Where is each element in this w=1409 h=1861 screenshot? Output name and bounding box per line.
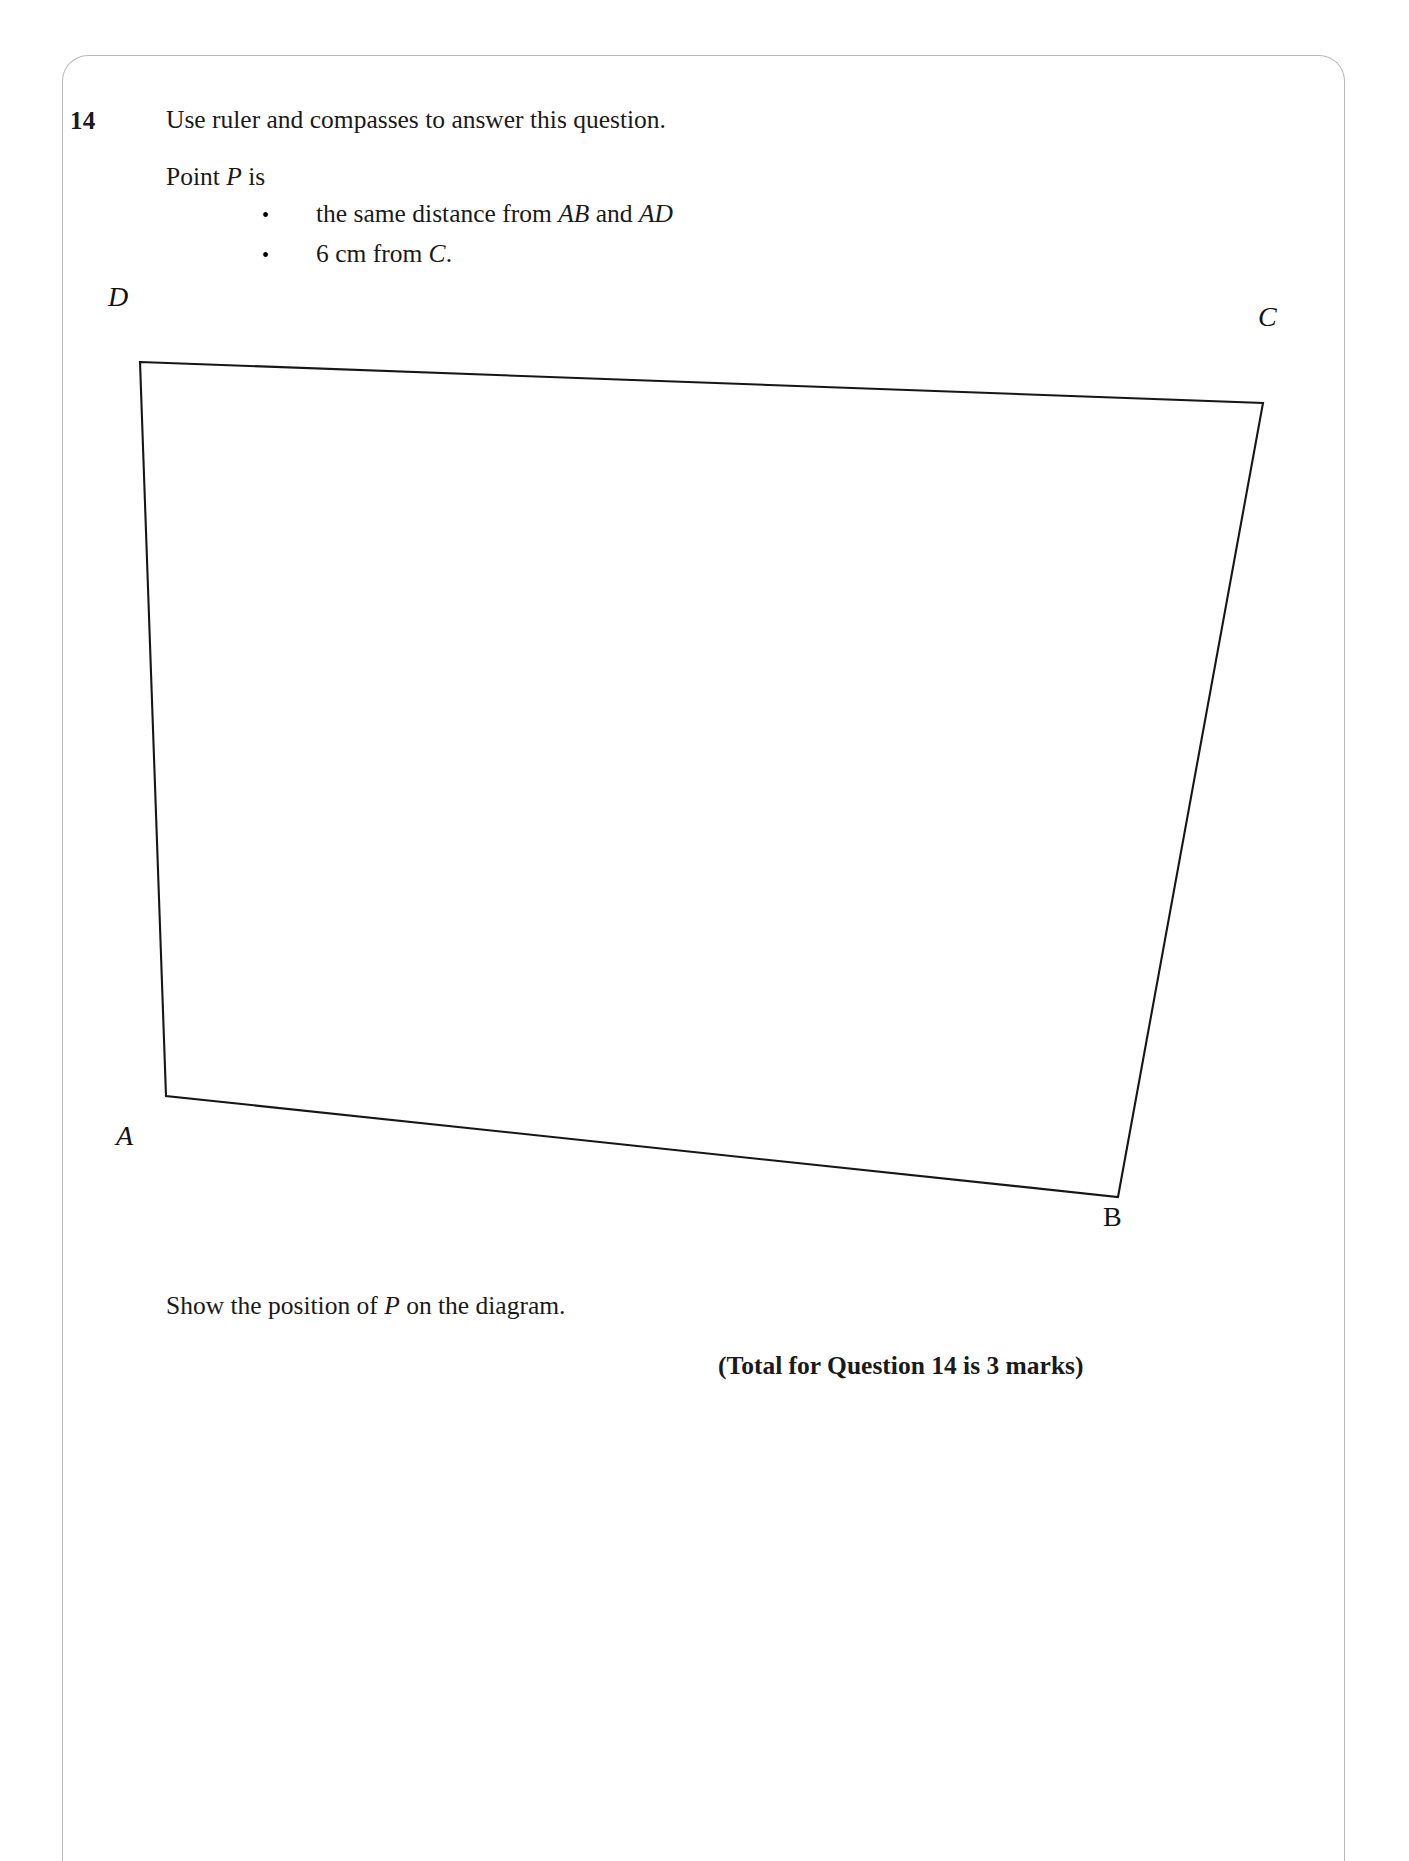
bullet-dot-icon: • bbox=[262, 245, 316, 265]
show-position-italic-p: P bbox=[384, 1291, 400, 1320]
point-lead-suffix: is bbox=[242, 162, 265, 191]
point-lead-prefix: Point bbox=[166, 162, 226, 191]
list-item: • 6 cm from C. bbox=[262, 239, 1162, 279]
show-position-prefix: Show the position of bbox=[166, 1291, 384, 1320]
show-position-suffix: on the diagram. bbox=[400, 1291, 566, 1320]
condition-2-suffix: . bbox=[446, 239, 452, 268]
condition-bullet-list: • the same distance from AB and AD • 6 c… bbox=[262, 199, 1162, 279]
list-item: • the same distance from AB and AD bbox=[262, 199, 1162, 239]
total-marks-text: (Total for Question 14 is 3 marks) bbox=[718, 1351, 1078, 1381]
point-p-lead-text: Point P is bbox=[166, 162, 265, 192]
exam-page-sheet bbox=[62, 55, 1345, 1861]
condition-1-italic-ad: AD bbox=[639, 199, 673, 228]
point-lead-italic-p: P bbox=[226, 162, 242, 191]
vertex-label-d: D bbox=[108, 283, 128, 311]
show-position-instruction: Show the position of P on the diagram. bbox=[166, 1291, 565, 1321]
question-instruction-text: Use ruler and compasses to answer this q… bbox=[166, 105, 666, 135]
condition-1-italic-ab: AB bbox=[558, 199, 589, 228]
vertex-label-c: C bbox=[1258, 303, 1277, 331]
vertex-label-a: A bbox=[116, 1122, 133, 1150]
condition-2-italic-c: C bbox=[429, 239, 446, 268]
question-number: 14 bbox=[70, 107, 95, 135]
condition-1-middle: and bbox=[589, 199, 639, 228]
condition-text-1: the same distance from AB and AD bbox=[316, 199, 673, 229]
bullet-dot-icon: • bbox=[262, 205, 316, 225]
vertex-label-b: B bbox=[1103, 1203, 1122, 1231]
condition-1-prefix: the same distance from bbox=[316, 199, 558, 228]
condition-text-2: 6 cm from C. bbox=[316, 239, 452, 269]
condition-2-prefix: 6 cm from bbox=[316, 239, 429, 268]
